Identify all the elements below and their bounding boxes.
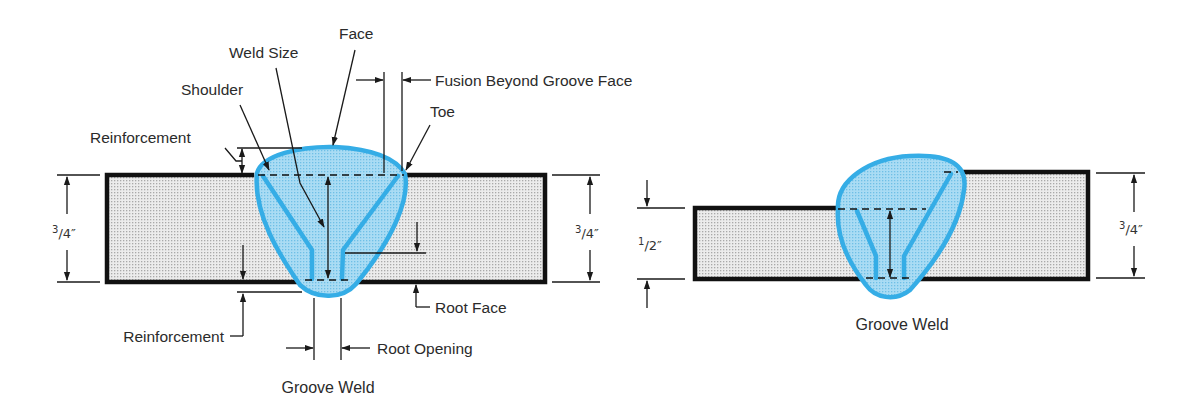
right-groove-weld-figure: 1/2″ 3/4″ Groove Weld [637,156,1145,333]
label-face: Face [339,25,373,42]
shoulder-leader-arrow [240,105,269,170]
caption-right: Groove Weld [855,316,948,333]
weld-diagram: Face Weld Size Shoulder Fusion Beyond Gr… [0,0,1198,411]
thin-plate-thickness-label: 1/2″ [638,236,662,253]
right-thickness-label: 3/4″ [575,224,599,241]
label-fusion-beyond-groove-face: Fusion Beyond Groove Face [435,72,632,89]
label-weld-size: Weld Size [229,44,299,61]
thick-plate-thickness-label: 3/4″ [1119,220,1143,237]
label-root-opening: Root Opening [377,340,473,357]
left-groove-weld-figure: Face Weld Size Shoulder Fusion Beyond Gr… [52,25,632,396]
label-reinforcement-top: Reinforcement [90,129,191,146]
reinforcement-top-leader [225,148,242,161]
label-toe: Toe [430,103,455,120]
face-leader-arrow [333,50,355,145]
label-root-face: Root Face [435,299,507,316]
caption-left: Groove Weld [281,379,374,396]
label-reinforcement-bottom: Reinforcement [123,328,224,345]
toe-leader-arrow [406,125,430,170]
label-shoulder: Shoulder [181,81,243,98]
left-thickness-label: 3/4″ [52,224,76,241]
